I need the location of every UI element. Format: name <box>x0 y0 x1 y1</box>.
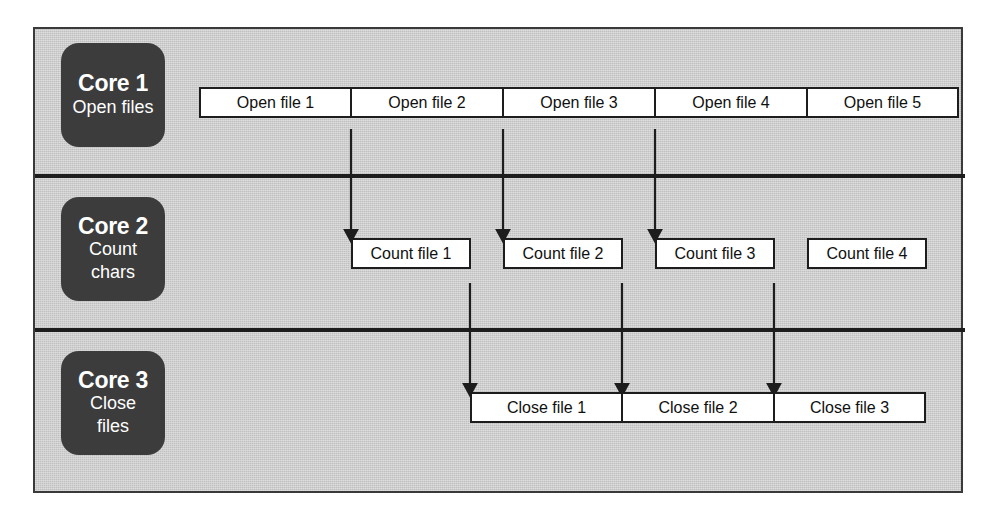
core-subtitle-line: files <box>97 415 129 438</box>
task-box-open-file-2[interactable]: Open file 2 <box>351 87 503 118</box>
task-label: Close file 2 <box>658 399 737 417</box>
core-subtitle-line: chars <box>91 261 135 284</box>
core-title: Core 1 <box>78 71 148 95</box>
diagram-frame: Core 1 Open files Core 2 Count chars Cor… <box>33 27 963 493</box>
lane-separator-2 <box>35 328 965 332</box>
task-box-count-file-2[interactable]: Count file 2 <box>503 238 623 269</box>
task-label: Count file 3 <box>675 245 756 263</box>
task-label: Count file 2 <box>523 245 604 263</box>
task-box-open-file-3[interactable]: Open file 3 <box>503 87 655 118</box>
task-label: Close file 3 <box>810 399 889 417</box>
task-box-count-file-1[interactable]: Count file 1 <box>351 238 471 269</box>
task-label: Count file 1 <box>371 245 452 263</box>
core-subtitle-line: Open files <box>72 96 153 119</box>
core-badge-core-1: Core 1 Open files <box>61 43 165 147</box>
task-label: Open file 5 <box>844 94 921 112</box>
task-box-count-file-3[interactable]: Count file 3 <box>655 238 775 269</box>
task-box-open-file-1[interactable]: Open file 1 <box>199 87 351 118</box>
core-title: Core 3 <box>78 368 148 392</box>
task-box-close-file-3[interactable]: Close file 3 <box>774 392 926 423</box>
core-subtitle-line: Close <box>90 392 136 415</box>
task-box-close-file-2[interactable]: Close file 2 <box>622 392 774 423</box>
lane-separator-1 <box>35 174 965 178</box>
task-box-close-file-1[interactable]: Close file 1 <box>470 392 622 423</box>
task-box-open-file-4[interactable]: Open file 4 <box>655 87 807 118</box>
task-label: Open file 1 <box>237 94 314 112</box>
task-box-open-file-5[interactable]: Open file 5 <box>807 87 959 118</box>
core-badge-core-3: Core 3 Close files <box>61 351 165 455</box>
core-subtitle-line: Count <box>89 238 137 261</box>
task-label: Open file 4 <box>692 94 769 112</box>
core-badge-core-2: Core 2 Count chars <box>61 197 165 301</box>
core-title: Core 2 <box>78 214 148 238</box>
task-label: Open file 3 <box>540 94 617 112</box>
diagram-canvas: Core 1 Open files Core 2 Count chars Cor… <box>0 0 986 518</box>
task-label: Count file 4 <box>827 245 908 263</box>
task-label: Open file 2 <box>388 94 465 112</box>
task-box-count-file-4[interactable]: Count file 4 <box>807 238 927 269</box>
task-label: Close file 1 <box>507 399 586 417</box>
